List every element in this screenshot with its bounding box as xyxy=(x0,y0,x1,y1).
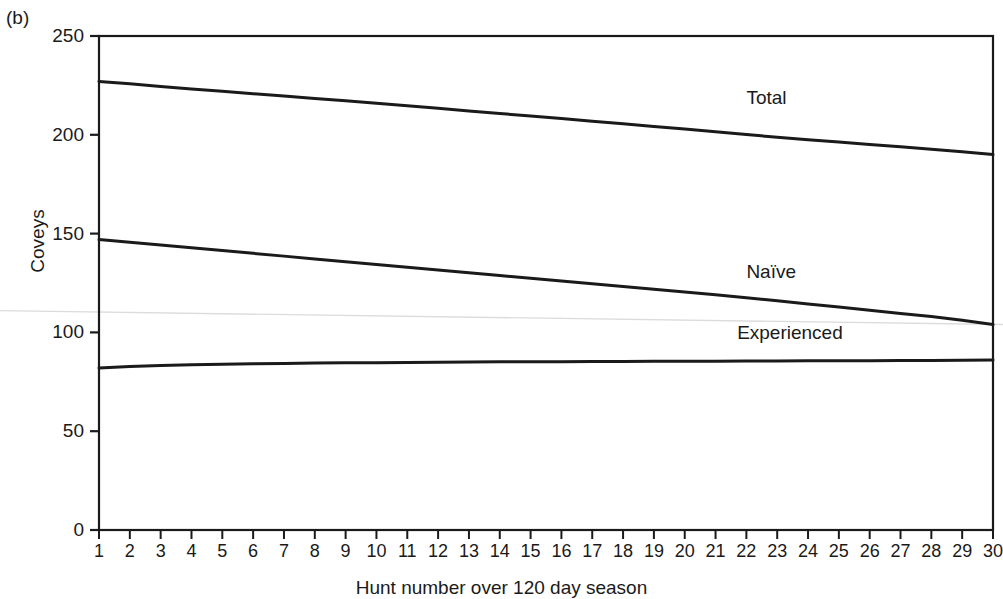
x-tick-label: 15 xyxy=(521,541,541,562)
x-tick-label: 3 xyxy=(156,541,166,562)
x-tick-label: 9 xyxy=(341,541,351,562)
series-label-nave: Naïve xyxy=(746,261,796,283)
x-tick-label: 6 xyxy=(248,541,258,562)
x-tick-label: 2 xyxy=(125,541,135,562)
scan-artifact-line xyxy=(0,311,1003,325)
x-tick-label: 12 xyxy=(428,541,448,562)
x-tick-label: 16 xyxy=(551,541,571,562)
x-tick-label: 4 xyxy=(186,541,196,562)
x-tick-label: 7 xyxy=(279,541,289,562)
x-tick-label: 29 xyxy=(952,541,972,562)
x-tick-label: 27 xyxy=(891,541,911,562)
x-tick-label: 30 xyxy=(983,541,1003,562)
x-tick-label: 19 xyxy=(644,541,664,562)
x-tick-label: 24 xyxy=(798,541,818,562)
series-line-experienced xyxy=(99,360,993,368)
series-line-total xyxy=(99,81,993,154)
x-tick-label: 25 xyxy=(829,541,849,562)
x-tick-label: 10 xyxy=(366,541,386,562)
x-tick-label: 26 xyxy=(860,541,880,562)
x-tick-label: 28 xyxy=(921,541,941,562)
x-tick-label: 14 xyxy=(490,541,510,562)
x-tick-label: 5 xyxy=(217,541,227,562)
plot-canvas xyxy=(0,0,1003,599)
x-tick-label: 17 xyxy=(582,541,602,562)
x-tick-label: 1 xyxy=(94,541,104,562)
x-tick-label: 8 xyxy=(310,541,320,562)
series-label-total: Total xyxy=(746,87,786,109)
plot-frame xyxy=(99,36,993,530)
x-tick-label: 22 xyxy=(736,541,756,562)
series-line-nave xyxy=(99,240,993,325)
x-tick-label: 23 xyxy=(767,541,787,562)
x-tick-label: 18 xyxy=(613,541,633,562)
figure-panel-b: (b) Coveys Hunt number over 120 day seas… xyxy=(0,0,1003,599)
x-tick-label: 20 xyxy=(675,541,695,562)
series-label-experienced: Experienced xyxy=(737,322,843,344)
x-tick-label: 21 xyxy=(706,541,726,562)
x-tick-label: 13 xyxy=(459,541,479,562)
x-tick-label: 11 xyxy=(398,541,417,562)
